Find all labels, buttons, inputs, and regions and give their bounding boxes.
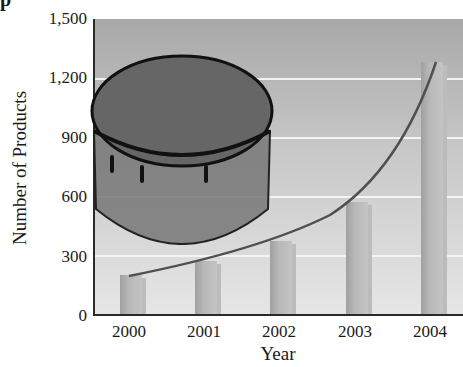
trend-curve [0, 0, 463, 367]
